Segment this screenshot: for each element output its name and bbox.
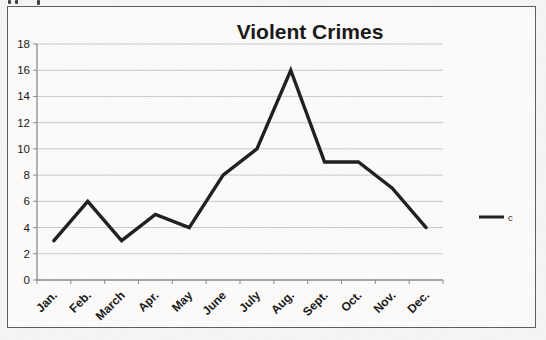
scanned-page: Violent Crimes 024681012141618Jan.Feb.Ma…: [0, 0, 546, 340]
legend-label: c: [508, 212, 513, 223]
chart-legend: c: [0, 0, 546, 340]
